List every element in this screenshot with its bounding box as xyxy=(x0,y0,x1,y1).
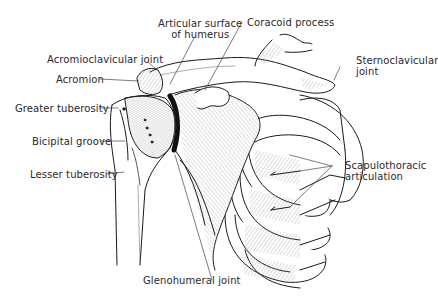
acromion xyxy=(137,68,163,94)
humerus xyxy=(110,95,176,265)
label-coracoid-process: Coracoid process xyxy=(247,17,334,28)
label-scapulothoracic-articulation: Scapulothoracic articulation xyxy=(345,160,426,182)
clavicle xyxy=(150,57,335,95)
label-articular-surface-line2: of humerus xyxy=(158,29,242,40)
label-acromioclavicular-joint: Acromioclavicular joint xyxy=(47,54,163,65)
label-lesser-tuberosity: Lesser tuberosity xyxy=(30,169,118,180)
label-scapulothoracic-line2: articulation xyxy=(345,171,426,182)
label-articular-surface: Articular surface of humerus xyxy=(158,18,242,40)
label-sternoclavicular-line2: joint xyxy=(356,66,438,77)
label-sternoclavicular-line1: Sternoclavicular xyxy=(356,55,438,66)
label-greater-tuberosity: Greater tuberosity xyxy=(15,103,109,114)
label-sternoclavicular-joint: Sternoclavicular joint xyxy=(356,55,438,77)
label-glenohumeral-joint: Glenohumeral joint xyxy=(143,275,241,286)
label-articular-surface-line1: Articular surface xyxy=(158,18,242,29)
shoulder-illustration xyxy=(0,0,438,299)
label-scapulothoracic-line1: Scapulothoracic xyxy=(345,160,426,171)
shoulder-anatomy-diagram: Articular surface of humerus Coracoid pr… xyxy=(0,0,438,299)
label-bicipital-groove: Bicipital groove xyxy=(32,136,111,147)
label-acromion: Acromion xyxy=(56,74,104,85)
